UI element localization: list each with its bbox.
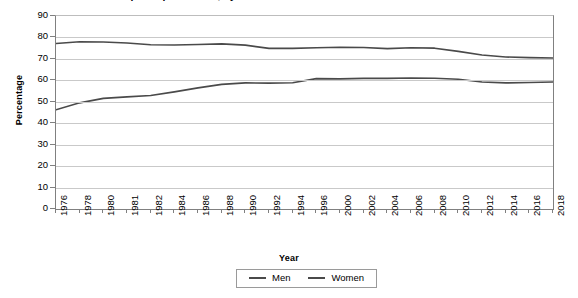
- chart-legend: Men Women: [236, 269, 377, 288]
- x-tick-mark: [457, 209, 458, 213]
- x-tick-label: 1976: [59, 195, 69, 216]
- x-tick-mark: [410, 209, 411, 213]
- x-tick-label: 1988: [225, 195, 235, 216]
- y-tick-mark: [50, 122, 55, 123]
- x-tick-mark: [173, 209, 174, 213]
- gridline: [56, 188, 553, 189]
- y-tick-mark: [50, 208, 55, 209]
- x-tick-label: 2014: [509, 195, 519, 216]
- legend-label-women: Women: [331, 273, 364, 283]
- x-tick-mark: [244, 209, 245, 213]
- x-tick-mark: [79, 209, 80, 213]
- x-tick-mark: [197, 209, 198, 213]
- x-tick-label: 1978: [83, 195, 93, 216]
- y-tick-label: 60: [22, 74, 48, 84]
- y-tick-mark: [50, 165, 55, 166]
- x-tick-label: 2006: [414, 195, 424, 216]
- x-tick-mark: [363, 209, 364, 213]
- series-line-men: [56, 42, 553, 58]
- y-tick-mark: [50, 101, 55, 102]
- series-lines: [56, 16, 553, 209]
- legend-swatch-women: [308, 277, 325, 279]
- x-tick-mark: [126, 209, 127, 213]
- legend-label-men: Men: [272, 273, 290, 283]
- x-tick-label: 2008: [438, 195, 448, 216]
- y-tick-label: 20: [22, 160, 48, 170]
- x-tick-mark: [481, 209, 482, 213]
- x-tick-mark: [292, 209, 293, 213]
- x-tick-mark: [386, 209, 387, 213]
- x-tick-label: 1980: [106, 195, 116, 216]
- x-tick-label: 1981: [130, 195, 140, 216]
- x-tick-label: 2016: [532, 195, 542, 216]
- gridline: [56, 123, 553, 124]
- x-tick-mark: [268, 209, 269, 213]
- x-tick-label: 1994: [296, 195, 306, 216]
- plot-area: [55, 15, 554, 210]
- legend-item-men: Men: [249, 273, 290, 283]
- y-tick-label: 0: [22, 203, 48, 213]
- y-tick-mark: [50, 36, 55, 37]
- y-tick-label: 90: [22, 10, 48, 20]
- x-tick-label: 1986: [201, 195, 211, 216]
- x-tick-mark: [528, 209, 529, 213]
- x-axis-title: Year: [0, 253, 578, 263]
- x-tick-mark: [102, 209, 103, 213]
- x-tick-mark: [150, 209, 151, 213]
- series-line-women: [56, 78, 553, 110]
- y-tick-label: 40: [22, 117, 48, 127]
- y-tick-label: 10: [22, 182, 48, 192]
- chart-title: Labour force participation rate, by sex: [62, 0, 257, 1]
- x-tick-mark: [552, 209, 553, 213]
- x-tick-mark: [505, 209, 506, 213]
- y-tick-label: 70: [22, 53, 48, 63]
- x-tick-mark: [434, 209, 435, 213]
- x-tick-mark: [221, 209, 222, 213]
- line-chart: Labour force participation rate, by sex …: [0, 0, 578, 298]
- x-tick-label: 1996: [319, 195, 329, 216]
- x-tick-mark: [315, 209, 316, 213]
- x-tick-mark: [55, 209, 56, 213]
- legend-swatch-men: [249, 277, 266, 279]
- y-tick-mark: [50, 58, 55, 59]
- legend-item-women: Women: [308, 273, 364, 283]
- x-tick-label: 2002: [367, 195, 377, 216]
- y-tick-label: 50: [22, 96, 48, 106]
- y-tick-mark: [50, 187, 55, 188]
- y-tick-mark: [50, 144, 55, 145]
- x-tick-label: 1992: [272, 195, 282, 216]
- gridline: [56, 145, 553, 146]
- gridline: [56, 59, 553, 60]
- gridline: [56, 166, 553, 167]
- y-tick-mark: [50, 15, 55, 16]
- y-tick-label: 30: [22, 139, 48, 149]
- x-tick-mark: [339, 209, 340, 213]
- gridline: [56, 37, 553, 38]
- x-tick-label: 1984: [177, 195, 187, 216]
- x-tick-label: 1990: [248, 195, 258, 216]
- x-tick-label: 1982: [154, 195, 164, 216]
- x-axis-tick-labels: 1976197819801981198219841986198819901992…: [55, 209, 554, 259]
- x-tick-label: 2004: [390, 195, 400, 216]
- x-tick-label: 2010: [461, 195, 471, 216]
- gridline: [56, 102, 553, 103]
- gridline: [56, 80, 553, 81]
- y-tick-mark: [50, 79, 55, 80]
- x-tick-label: 2012: [485, 195, 495, 216]
- x-tick-label: 2000: [343, 195, 353, 216]
- y-tick-label: 80: [22, 31, 48, 41]
- x-tick-label: 2018: [556, 195, 566, 216]
